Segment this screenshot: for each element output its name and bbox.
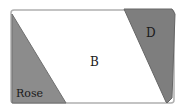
- label-b: B: [90, 55, 99, 69]
- label-rose: Rose: [16, 87, 43, 100]
- label-d: D: [146, 26, 156, 40]
- partition-diagram: Rose B D: [0, 0, 183, 108]
